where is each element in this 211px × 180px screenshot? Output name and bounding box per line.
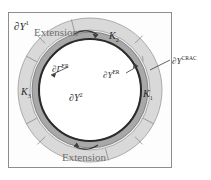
core-region — [41, 41, 140, 140]
label-domain-outer-sup: 1 — [26, 19, 29, 26]
label-extension-top: Extension — [34, 27, 78, 38]
label-sector-k3-sub: 3 — [28, 92, 31, 99]
label-domain-inner-symbol: ∂Y — [69, 92, 80, 103]
label-domain-inner: ∂Y2 — [69, 92, 83, 103]
figure-container: ∂Y1 Extension Extension K2 K3 K1 ∂YCRAC … — [0, 0, 211, 180]
label-boundary-gamma-er: ∂ΓER — [52, 64, 69, 74]
label-sector-k1-sub: 1 — [150, 94, 153, 101]
label-boundary-crac-sup: CRAC — [181, 55, 196, 61]
label-boundary-crac: ∂YCRAC — [172, 56, 197, 66]
label-sector-k1: K1 — [143, 89, 153, 101]
label-boundary-gamma-er-symbol: ∂Γ — [52, 64, 62, 74]
label-boundary-gamma-er-sup: ER — [62, 63, 69, 69]
label-sector-k2-symbol: K — [109, 30, 116, 41]
label-sector-k1-symbol: K — [143, 88, 150, 99]
label-domain-outer: ∂Y1 — [14, 20, 29, 32]
label-boundary-er-sup: ER — [112, 69, 119, 75]
label-domain-outer-symbol: ∂Y — [14, 20, 26, 32]
label-domain-inner-sup: 2 — [80, 91, 83, 98]
label-sector-k2-sub: 2 — [116, 36, 119, 43]
label-sector-k2: K2 — [109, 31, 119, 43]
label-boundary-er: ∂YER — [103, 70, 120, 80]
label-sector-k3-symbol: K — [21, 86, 28, 97]
label-extension-bottom: Extension — [62, 152, 106, 163]
label-sector-k3: K3 — [21, 87, 31, 99]
